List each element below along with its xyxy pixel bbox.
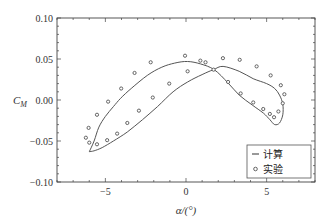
experimental-point: [107, 100, 110, 103]
legend-label-calculated: 计算: [263, 148, 283, 160]
chart: −0.10−0.050.000.050.10 −505 CM α/(°) 计算 …: [0, 0, 327, 224]
experimental-point: [268, 112, 271, 115]
experimental-point: [255, 65, 258, 68]
experimental-point: [238, 58, 241, 61]
experimental-point: [221, 57, 224, 60]
y-tick-label: 0.00: [36, 95, 54, 106]
experimental-point: [252, 101, 255, 104]
experimental-point: [84, 136, 87, 139]
x-tick-label: 5: [264, 186, 269, 197]
experimental-point: [168, 82, 171, 85]
y-tick-label: −0.05: [30, 136, 53, 147]
experimental-point: [149, 61, 152, 64]
legend-label-experimental: 实验: [263, 163, 283, 175]
experimental-point: [120, 87, 123, 90]
experimental-point: [226, 80, 229, 83]
experimental-point: [126, 121, 129, 124]
experimental-point: [269, 74, 272, 77]
experimental-point: [281, 102, 284, 105]
experimental-point: [183, 54, 186, 57]
x-tick-labels: −505: [100, 186, 269, 197]
experimental-point: [186, 70, 189, 73]
experimental-point: [106, 139, 109, 142]
y-tick-label: −0.10: [30, 177, 53, 188]
experimental-point: [283, 93, 286, 96]
x-axis-label: α/(°): [176, 204, 197, 217]
experimental-point: [262, 107, 265, 110]
experimental-point: [133, 71, 136, 74]
experimental-point: [204, 61, 207, 64]
x-tick-label: 0: [184, 186, 189, 197]
experimental-point: [116, 132, 119, 135]
experimental-point: [87, 126, 90, 129]
experimental-point: [239, 92, 242, 95]
experimental-point: [272, 116, 275, 119]
legend: 计算 实验: [247, 145, 311, 178]
experimental-point: [277, 110, 280, 113]
experimental-point: [137, 109, 140, 112]
experimental-point: [279, 84, 282, 87]
experimental-point: [199, 59, 202, 62]
y-tick-labels: −0.10−0.050.000.050.10: [30, 13, 53, 188]
calculated-curve: [89, 61, 283, 151]
y-axis-label-subscript: M: [19, 100, 28, 109]
y-axis-label: CM: [13, 94, 28, 109]
y-tick-label: 0.05: [36, 54, 54, 65]
experimental-point: [95, 143, 98, 146]
experimental-markers: [84, 54, 286, 146]
experimental-point: [151, 96, 154, 99]
calculated-line: [89, 61, 283, 151]
experimental-point: [212, 68, 215, 71]
experimental-point: [95, 113, 98, 116]
x-tick-label: −5: [100, 186, 111, 197]
experimental-point: [88, 141, 91, 144]
y-tick-label: 0.10: [36, 13, 54, 24]
